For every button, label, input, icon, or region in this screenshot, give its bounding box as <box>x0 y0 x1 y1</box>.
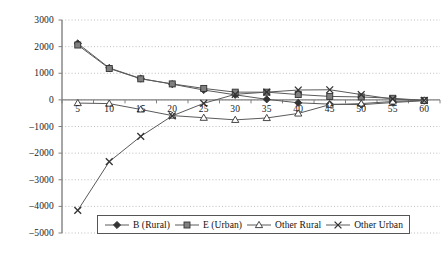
gridlines <box>62 20 440 233</box>
marker-square <box>184 222 190 228</box>
marker-diamond <box>113 221 120 228</box>
x-axis-label: 60 <box>413 104 435 114</box>
y-axis-label: 0 <box>12 95 54 105</box>
y-axis-label: –2000 <box>12 148 54 158</box>
y-axis-label: 3000 <box>12 15 54 25</box>
x-axis-label: 20 <box>161 104 183 114</box>
legend-marker-diamond-icon <box>104 219 130 231</box>
legend-marker-cross-icon <box>325 219 351 231</box>
y-axis-label: –3000 <box>12 175 54 185</box>
y-axis-label: –4000 <box>12 201 54 211</box>
legend-item-2: E (Urban) <box>174 219 242 231</box>
y-axis-label: 1000 <box>12 68 54 78</box>
legend-item-4: Other Urban <box>325 219 403 231</box>
legend-label: E (Urban) <box>202 220 242 230</box>
x-axis-label: 30 <box>224 104 246 114</box>
marker-square <box>201 85 207 91</box>
x-axis-label: 5 <box>67 104 89 114</box>
legend-item-3: Other Rural <box>246 219 321 231</box>
marker-cross <box>137 133 144 140</box>
legend-marker-triangle-icon <box>246 219 272 231</box>
marker-square <box>106 65 112 71</box>
marker-cross <box>106 158 113 165</box>
x-axis-label: 35 <box>256 104 278 114</box>
line-chart: 3000200010000–1000–2000–3000–4000–5000 5… <box>0 0 445 255</box>
x-axis-label: 45 <box>319 104 341 114</box>
chart-legend: B (Rural)E (Urban)Other RuralOther Urban <box>97 215 410 234</box>
series-line <box>78 45 425 100</box>
legend-label: Other Rural <box>274 220 321 230</box>
legend-item-1: B (Rural) <box>104 219 170 231</box>
marker-square <box>169 81 175 87</box>
x-axis-label: 40 <box>287 104 309 114</box>
marker-square <box>75 42 81 48</box>
series-2 <box>75 42 428 103</box>
marker-diamond <box>263 96 270 103</box>
y-axis-label: –5000 <box>12 228 54 238</box>
series-4 <box>74 86 427 213</box>
marker-square <box>138 76 144 82</box>
x-axis-label: 15 <box>130 104 152 114</box>
y-axis-label: –1000 <box>12 122 54 132</box>
series-line <box>78 43 425 104</box>
y-axis-label: 2000 <box>12 42 54 52</box>
x-axis-label: 55 <box>382 104 404 114</box>
x-axis-label: 50 <box>350 104 372 114</box>
x-axis-label: 10 <box>98 104 120 114</box>
legend-label: B (Rural) <box>132 220 170 230</box>
marker-cross <box>74 207 81 214</box>
x-axis-label: 25 <box>193 104 215 114</box>
legend-label: Other Urban <box>353 220 403 230</box>
legend-marker-square-icon <box>174 219 200 231</box>
marker-square <box>327 93 333 99</box>
